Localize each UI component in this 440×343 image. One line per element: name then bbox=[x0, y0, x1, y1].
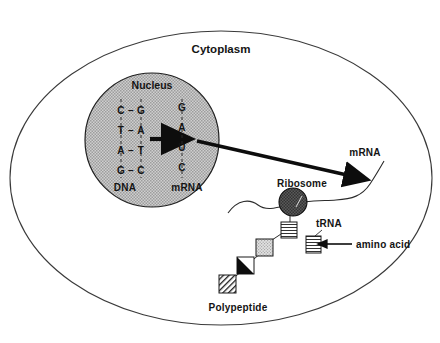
dna-base-pair-row: G – C bbox=[117, 165, 145, 176]
dna-base-right: A bbox=[137, 125, 144, 136]
polypeptide-unit bbox=[219, 275, 236, 293]
mrna-nucleus-label: mRNA bbox=[171, 182, 202, 193]
dna-base-left: T bbox=[118, 125, 124, 136]
mrna-cytoplasm-label: mRNA bbox=[349, 147, 380, 158]
polypeptide-unit bbox=[256, 239, 273, 256]
ribosome-label: Ribosome bbox=[277, 178, 327, 189]
polypeptide-label: Polypeptide bbox=[209, 302, 268, 313]
dna-base-bond: – bbox=[128, 145, 134, 156]
protein-synthesis-diagram: Cytoplasm Nucleus C – G T – A A – T G – … bbox=[0, 0, 440, 343]
dna-base-right: C bbox=[137, 165, 144, 176]
trna-free-block bbox=[306, 236, 321, 253]
mrna-base: A bbox=[178, 122, 185, 133]
mrna-base: U bbox=[178, 142, 185, 153]
dna-base-bond: – bbox=[128, 165, 134, 176]
ribosome-body bbox=[279, 188, 307, 216]
dna-base-right: G bbox=[137, 105, 145, 116]
mrna-base: C bbox=[178, 162, 185, 173]
dna-base-bond: – bbox=[128, 105, 134, 116]
dna-base-right: T bbox=[138, 145, 144, 156]
dna-base-pair-row: C – G bbox=[117, 105, 145, 116]
cytoplasm-label: Cytoplasm bbox=[192, 43, 251, 55]
dna-base-bond: – bbox=[128, 125, 134, 136]
dna-label: DNA bbox=[114, 182, 136, 193]
trna-block bbox=[281, 222, 297, 238]
dna-base-left: C bbox=[117, 105, 124, 116]
amino-acid-label: amino acid bbox=[356, 239, 410, 250]
dna-base-left: G bbox=[117, 165, 125, 176]
dna-base-left: A bbox=[117, 145, 124, 156]
nucleus-label: Nucleus bbox=[132, 79, 173, 91]
trna-label: tRNA bbox=[316, 218, 342, 229]
diagram-canvas: Cytoplasm Nucleus C – G T – A A – T G – … bbox=[0, 0, 440, 343]
dna-base-pair-row: A – T bbox=[117, 145, 144, 156]
mrna-base: G bbox=[178, 102, 186, 113]
dna-base-pair-row: T – A bbox=[118, 125, 145, 136]
